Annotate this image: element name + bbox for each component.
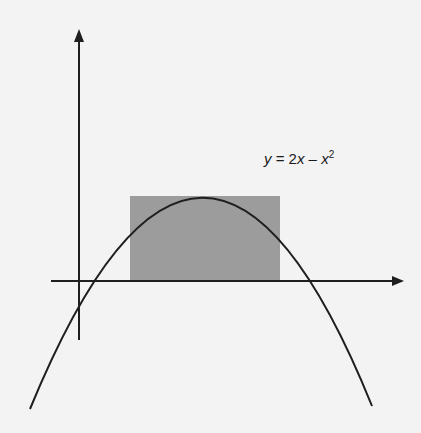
diagram-canvas: y = 2x – x2 [0,0,421,433]
y-axis-arrow-icon [74,29,84,42]
x-axis-arrow-icon [392,276,404,286]
inscribed-rectangle [130,196,280,280]
equation-label: y = 2x – x2 [263,149,335,167]
